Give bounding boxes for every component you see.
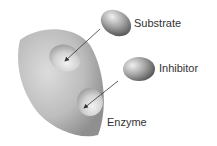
inhibitor-site xyxy=(77,88,103,116)
substrate-label: Substrate xyxy=(134,17,181,29)
enzyme-label: Enzyme xyxy=(107,116,147,128)
inhibitor-label: Inhibitor xyxy=(159,62,198,74)
substrate-molecule xyxy=(96,5,136,42)
inhibitor-molecule xyxy=(123,57,155,81)
